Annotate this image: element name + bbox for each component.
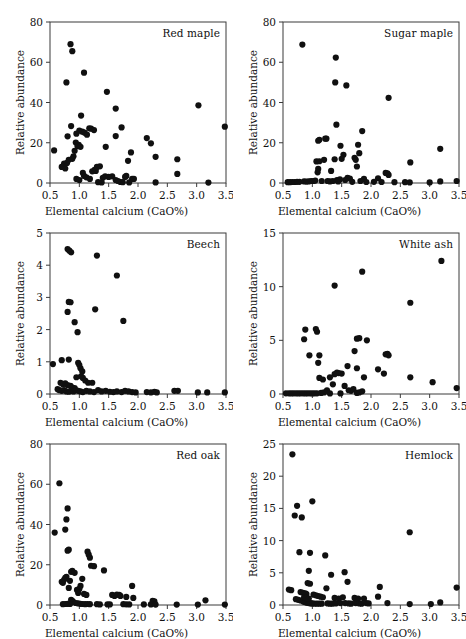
data-point	[454, 385, 460, 391]
data-point	[63, 79, 69, 85]
panel-sugar-maple: 0.51.01.52.02.53.03.5020406080Sugar mapl…	[233, 0, 466, 211]
data-point	[222, 124, 228, 130]
data-point	[91, 563, 97, 569]
data-point	[144, 135, 150, 141]
data-point	[391, 179, 397, 185]
data-points	[51, 41, 228, 186]
data-point	[340, 594, 346, 600]
data-point	[306, 595, 312, 601]
data-point	[342, 569, 348, 575]
panel-red-maple: 0.51.01.52.02.53.03.5020406080Red mapleE…	[0, 0, 233, 211]
data-point	[141, 601, 147, 607]
data-point	[128, 149, 134, 155]
data-point	[83, 592, 89, 598]
data-point	[315, 169, 321, 175]
data-point	[56, 480, 62, 486]
data-point	[67, 299, 73, 305]
data-point	[50, 361, 56, 367]
x-tick-label: 3.5	[218, 400, 233, 412]
data-point	[195, 102, 201, 108]
data-point	[89, 380, 95, 386]
x-tick-label: 3.0	[188, 611, 205, 623]
data-point	[307, 581, 313, 587]
x-tick-label: 1.0	[304, 400, 321, 412]
data-point	[377, 584, 383, 590]
plot-frame	[283, 233, 459, 394]
x-axis-label: Elemental calcium (CaO%)	[0, 627, 233, 639]
data-point	[125, 158, 131, 164]
data-point	[104, 89, 110, 95]
data-point	[327, 390, 333, 396]
panel-title: Red oak	[176, 449, 220, 461]
x-tick-label: 2.0	[130, 611, 147, 623]
data-point	[333, 122, 339, 128]
data-point	[363, 179, 369, 185]
data-point	[356, 335, 362, 341]
data-point	[361, 374, 367, 380]
y-tick-label: 0	[36, 177, 43, 189]
data-point	[67, 41, 73, 47]
data-point	[117, 593, 123, 599]
data-point	[123, 594, 129, 600]
y-tick-label: 40	[30, 519, 43, 531]
y-tick-label: 20	[30, 137, 43, 149]
y-tick-label: 5	[36, 227, 43, 239]
x-tick-label: 3.5	[451, 611, 466, 623]
y-tick-label: 60	[30, 56, 43, 68]
x-tick-label: 2.0	[130, 400, 147, 412]
x-tick-label: 3.5	[218, 611, 233, 623]
y-tick-label: 10	[263, 535, 276, 547]
y-tick-label: 10	[263, 281, 276, 293]
data-point	[130, 595, 136, 601]
data-point	[371, 179, 377, 185]
data-point	[327, 374, 333, 380]
data-points	[50, 246, 228, 395]
x-tick-label: 2.0	[363, 400, 380, 412]
x-tick-label: 1.5	[333, 189, 350, 201]
data-point	[378, 179, 384, 185]
plot-frame	[283, 22, 459, 183]
data-point	[407, 179, 413, 185]
data-point	[353, 157, 359, 163]
data-point	[174, 171, 180, 177]
data-point	[95, 179, 101, 185]
data-point	[66, 356, 72, 362]
data-point	[69, 48, 75, 54]
y-tick-label: 0	[269, 388, 276, 400]
data-point	[354, 365, 360, 371]
data-point	[332, 79, 338, 85]
y-tick-label: 40	[30, 97, 43, 109]
y-tick-label: 60	[263, 56, 276, 68]
data-points	[286, 451, 460, 607]
data-point	[62, 526, 68, 532]
data-point	[101, 567, 107, 573]
panel-hemlock: 0.51.01.52.02.53.03.50510152025HemlockEl…	[233, 422, 466, 633]
data-point	[133, 389, 139, 395]
data-point	[63, 516, 69, 522]
panel-title: Hemlock	[405, 449, 453, 461]
x-tick-label: 3.0	[421, 189, 438, 201]
data-points	[283, 258, 460, 397]
x-tick-label: 0.5	[42, 611, 59, 623]
y-tick-label: 80	[30, 16, 43, 28]
x-tick-label: 1.0	[71, 189, 88, 201]
data-point	[72, 570, 78, 576]
data-point	[309, 498, 315, 504]
panel-title: Beech	[187, 238, 220, 250]
data-point	[314, 390, 320, 396]
data-point	[437, 146, 443, 152]
data-point	[65, 505, 71, 511]
data-point	[78, 112, 84, 118]
x-tick-label: 2.0	[130, 189, 147, 201]
data-point	[356, 150, 362, 156]
x-tick-label: 0.5	[42, 400, 59, 412]
data-point	[52, 529, 58, 535]
data-point	[323, 136, 329, 142]
y-tick-label: 0	[36, 599, 43, 611]
data-point	[316, 158, 322, 164]
data-point	[319, 178, 325, 184]
data-point	[375, 594, 381, 600]
data-point	[307, 550, 313, 556]
data-point	[222, 389, 228, 395]
x-tick-label: 1.5	[100, 189, 117, 201]
